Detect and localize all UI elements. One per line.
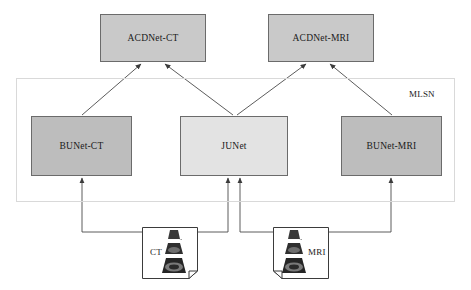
node-junet-label: JUNet	[221, 141, 246, 151]
document-mri-label: MRI	[308, 247, 326, 257]
ct-doc-fold-corner	[189, 271, 198, 279]
node-acdnet-mri[interactable]: ACDNet-MRI	[268, 14, 374, 62]
document-ct-label: CT	[150, 247, 162, 257]
node-bunet-ct-label: BUNet-CT	[60, 141, 104, 151]
node-bunet-mri[interactable]: BUNet-MRI	[341, 116, 442, 176]
diagram-canvas: MLSN ACDNet-CT	[0, 0, 471, 290]
node-bunet-ct[interactable]: BUNet-CT	[31, 116, 132, 176]
node-junet[interactable]: JUNet	[180, 116, 288, 176]
mlsn-group-label: MLSN	[409, 89, 435, 99]
node-acdnet-ct[interactable]: ACDNet-CT	[100, 14, 206, 62]
node-acdnet-mri-label: ACDNet-MRI	[293, 33, 350, 43]
node-acdnet-ct-label: ACDNet-CT	[128, 33, 179, 43]
mri-doc-fold-corner	[274, 271, 283, 279]
node-bunet-mri-label: BUNet-MRI	[367, 141, 417, 151]
